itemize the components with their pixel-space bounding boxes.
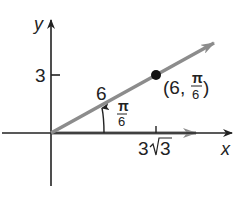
svg-text:(6,: (6, [163, 77, 185, 98]
ray-length-label: 6 [96, 83, 107, 104]
angle-arc-arrow [102, 108, 104, 133]
svg-text:6: 6 [192, 87, 199, 102]
y-tick-label: 3 [35, 65, 46, 86]
angle-label: π 6 [117, 98, 129, 129]
svg-text:3: 3 [160, 138, 171, 159]
polar-coordinate-diagram: y x 3 3 3 6 π 6 (6, π 6 ) [0, 0, 246, 200]
svg-text:π: π [118, 98, 129, 114]
point-label: (6, π 6 ) [163, 70, 209, 102]
terminal-ray [51, 43, 214, 133]
svg-text:): ) [203, 77, 209, 98]
svg-text:π: π [192, 70, 203, 86]
point-marker [151, 70, 161, 80]
x-tick-label: 3 3 [138, 138, 172, 159]
y-axis-label: y [32, 14, 44, 34]
svg-text:6: 6 [118, 114, 125, 129]
x-axis-label: x [220, 139, 231, 159]
svg-text:3: 3 [138, 138, 149, 159]
